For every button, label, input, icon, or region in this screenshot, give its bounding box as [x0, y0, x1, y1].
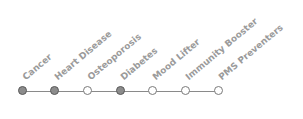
step-node-pms-preventers[interactable] [214, 86, 223, 95]
step-node-diabetes[interactable] [116, 86, 125, 95]
step-node-heart-disease[interactable] [50, 86, 59, 95]
step-label-pms-preventers: PMS Preventers [217, 22, 285, 82]
step-node-cancer[interactable] [18, 86, 27, 95]
step-node-osteoporosis[interactable] [83, 86, 92, 95]
step-node-mood-lifter[interactable] [148, 86, 157, 95]
step-label-cancer: Cancer [21, 52, 54, 82]
step-node-immunity-booster[interactable] [181, 86, 190, 95]
step-label-heart-disease: Heart Disease [53, 29, 114, 82]
